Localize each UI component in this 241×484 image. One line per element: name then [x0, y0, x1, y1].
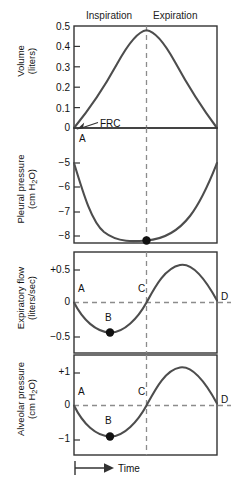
frc-arrow — [77, 123, 99, 130]
plot-frame-pleural — [74, 128, 217, 243]
figure-svg-layer — [0, 0, 241, 484]
panel-expiratory-flow — [74, 252, 231, 353]
curve-expiratory-flow — [74, 265, 217, 333]
curve-alveolar-pressure — [74, 367, 217, 436]
panel-volume — [74, 26, 217, 130]
marker-flow-point-b — [106, 328, 114, 336]
curve-volume — [74, 30, 217, 128]
time-axis-arrow — [75, 461, 114, 475]
panel-pleural-pressure — [74, 128, 217, 245]
marker-pleural-minimum — [142, 236, 150, 244]
respiratory-cycle-figure: Inspiration Expiration Volume (liters) P… — [0, 0, 241, 484]
ytick-marks-volume — [74, 46, 80, 107]
marker-alveolar-point-b — [106, 432, 114, 440]
panel-alveolar-pressure — [74, 355, 231, 455]
plot-frame-volume — [74, 26, 217, 128]
curve-pleural-pressure — [74, 163, 217, 241]
